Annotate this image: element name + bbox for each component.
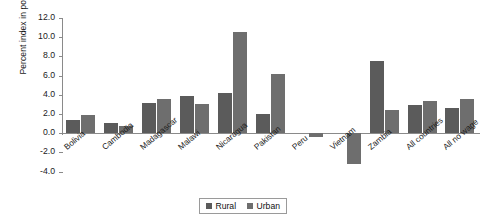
bar-rural-zambia[interactable] [370, 61, 384, 133]
bar-urban-nicaragua[interactable] [233, 32, 247, 133]
y-tick-mark [59, 172, 63, 173]
bar-urban-pakistan[interactable] [271, 74, 285, 134]
y-tick-mark [59, 152, 63, 153]
bar-urban-bolivia[interactable] [81, 115, 95, 133]
y-tick-mark [59, 133, 63, 134]
legend-swatch-rural [206, 203, 212, 209]
y-tick-label: 12.0 [21, 13, 55, 22]
y-tick-mark [59, 76, 63, 77]
bar-rural-malawi[interactable] [180, 96, 194, 133]
y-tick-label: 10.0 [21, 32, 55, 41]
legend-swatch-urban [247, 203, 253, 209]
bar-group [291, 18, 329, 148]
y-tick-mark [59, 37, 63, 38]
y-tick-label: -4.0 [21, 167, 55, 176]
bar-urban-peru[interactable] [309, 133, 323, 137]
y-tick-mark [59, 56, 63, 57]
y-tick-label: 4.0 [21, 90, 55, 99]
y-tick-label: -2.0 [21, 147, 55, 156]
y-tick-mark [59, 95, 63, 96]
legend-item-rural[interactable]: Rural [206, 201, 236, 211]
legend: Rural Urban [199, 198, 287, 214]
y-tick-label: 8.0 [21, 51, 55, 60]
bar-group [63, 18, 101, 148]
y-tick-mark [59, 18, 63, 19]
legend-item-urban[interactable]: Urban [247, 201, 280, 211]
bar-rural-all-countries[interactable] [408, 105, 422, 133]
y-tick-label: 0.0 [21, 128, 55, 137]
bar-rural-nicaragua[interactable] [218, 93, 232, 133]
chart-container: Percent index in poverty rate 12.010.08.… [0, 0, 496, 223]
y-tick-label: 2.0 [21, 109, 55, 118]
y-tick-label: 6.0 [21, 71, 55, 80]
legend-label-urban: Urban [257, 201, 280, 211]
y-tick-mark [59, 114, 63, 115]
legend-label-rural: Rural [216, 201, 237, 211]
